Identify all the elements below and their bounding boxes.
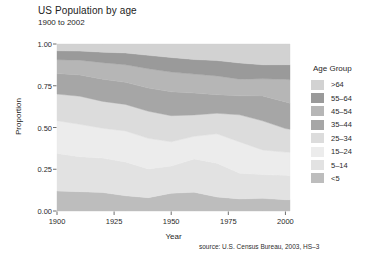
legend-swatch-icon xyxy=(311,173,324,183)
legend-item-label: 45–54 xyxy=(331,107,352,116)
legend-swatch-icon xyxy=(311,106,324,116)
x-tick-label: 2000 xyxy=(277,217,294,226)
legend-item[interactable]: 15–24 xyxy=(311,145,375,158)
legend-swatch-icon xyxy=(311,133,324,143)
legend-item[interactable]: <5 xyxy=(311,172,375,185)
legend-item[interactable]: 45–54 xyxy=(311,105,375,118)
x-tick-label: 1925 xyxy=(106,217,123,226)
legend-title: Age Group xyxy=(313,64,375,73)
x-tick-label: 1975 xyxy=(220,217,237,226)
source-caption: source: U.S. Census Bureau, 2003, HS–3 xyxy=(199,243,319,250)
legend-item-label: 55–64 xyxy=(331,94,352,103)
legend-swatch-icon xyxy=(311,160,324,170)
legend: Age Group >6455–6445–5435–4425–3415–245–… xyxy=(311,64,375,185)
x-tick-label: 1900 xyxy=(49,217,66,226)
legend-item[interactable]: 35–44 xyxy=(311,118,375,131)
legend-item-label: 35–44 xyxy=(331,120,352,129)
legend-item-label: 5–14 xyxy=(331,161,348,170)
legend-item[interactable]: 55–64 xyxy=(311,91,375,104)
legend-swatch-icon xyxy=(311,120,324,130)
legend-swatch-icon xyxy=(311,80,324,90)
legend-swatch-icon xyxy=(311,93,324,103)
legend-item-label: <5 xyxy=(331,174,340,183)
legend-item-label: >64 xyxy=(331,80,344,89)
legend-rows: >6455–6445–5435–4425–3415–245–14<5 xyxy=(311,78,375,185)
legend-swatch-icon xyxy=(311,147,324,157)
x-tick-label: 1950 xyxy=(163,217,180,226)
legend-item[interactable]: 25–34 xyxy=(311,132,375,145)
legend-item[interactable]: 5–14 xyxy=(311,158,375,171)
legend-item[interactable]: >64 xyxy=(311,78,375,91)
chart-page: US Population by age 1900 to 2002 Propor… xyxy=(0,0,378,260)
x-axis-label: Year xyxy=(57,232,290,241)
legend-item-label: 15–24 xyxy=(331,147,352,156)
legend-item-label: 25–34 xyxy=(331,134,352,143)
